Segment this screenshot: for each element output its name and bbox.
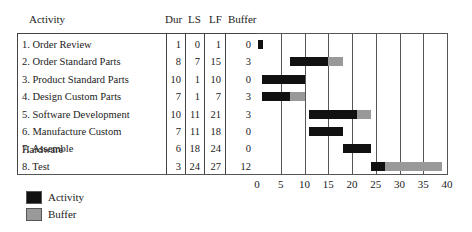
x-tick-label: 30 <box>394 178 405 190</box>
cell-lf: 1 <box>204 36 221 54</box>
table-row: 6. Manufacture Custom Hardware711180 <box>0 123 472 141</box>
cell-dur: 10 <box>166 106 181 124</box>
cell-ls: 1 <box>185 88 200 106</box>
header-dur: Dur <box>165 13 182 25</box>
cell-lf: 21 <box>204 106 221 124</box>
cell-buffer: 3 <box>225 88 251 106</box>
cell-ls: 18 <box>185 140 200 158</box>
header-lf: LF <box>209 13 222 25</box>
cell-dur: 8 <box>166 53 181 71</box>
x-tick-label: 15 <box>323 178 334 190</box>
cell-lf: 10 <box>204 71 221 89</box>
cell-lf: 27 <box>204 158 221 176</box>
cell-lf: 15 <box>204 53 221 71</box>
cell-name: 7. Assemble <box>22 140 162 158</box>
cell-ls: 1 <box>185 71 200 89</box>
header-buffer: Buffer <box>228 13 257 25</box>
cell-ls: 11 <box>185 106 200 124</box>
legend-activity-label: Activity <box>48 191 84 203</box>
cell-dur: 1 <box>166 36 181 54</box>
table-row: 1. Order Review1010 <box>0 36 472 54</box>
x-tick-label: 10 <box>299 178 310 190</box>
legend-buffer-swatch <box>26 208 42 221</box>
cell-name: 3. Product Standard Parts <box>22 71 162 89</box>
cell-dur: 3 <box>166 158 181 176</box>
x-tick-label: 0 <box>254 178 260 190</box>
cell-buffer: 0 <box>225 36 251 54</box>
cell-buffer: 3 <box>225 106 251 124</box>
cell-name: 4. Design Custom Parts <box>22 88 162 106</box>
table-row: 7. Assemble618240 <box>0 140 472 158</box>
cell-name: 2. Order Standard Parts <box>22 53 162 71</box>
cell-ls: 24 <box>185 158 200 176</box>
x-tick-label: 40 <box>442 178 453 190</box>
legend-buffer-label: Buffer <box>48 208 77 220</box>
x-tick-label: 25 <box>370 178 381 190</box>
table-row: 4. Design Custom Parts7173 <box>0 88 472 106</box>
header-activity: Activity <box>29 13 65 25</box>
cell-dur: 7 <box>166 123 181 141</box>
cell-buffer: 0 <box>225 140 251 158</box>
cell-buffer: 0 <box>225 71 251 89</box>
cell-lf: 18 <box>204 123 221 141</box>
cell-buffer: 12 <box>225 158 251 176</box>
cell-ls: 11 <box>185 123 200 141</box>
table-row: 5. Software Development1011213 <box>0 106 472 124</box>
cell-name: 1. Order Review <box>22 36 162 54</box>
x-tick-label: 20 <box>347 178 358 190</box>
cell-name: 8. Test <box>22 158 162 176</box>
legend-activity-swatch <box>26 191 42 204</box>
cell-dur: 10 <box>166 71 181 89</box>
cell-name: 5. Software Development <box>22 106 162 124</box>
cell-ls: 0 <box>185 36 200 54</box>
cell-dur: 7 <box>166 88 181 106</box>
table-row: 3. Product Standard Parts101100 <box>0 71 472 89</box>
table-row: 2. Order Standard Parts87153 <box>0 53 472 71</box>
cell-lf: 24 <box>204 140 221 158</box>
header-ls: LS <box>188 13 201 25</box>
x-tick-label: 5 <box>278 178 284 190</box>
cell-buffer: 0 <box>225 123 251 141</box>
cell-ls: 7 <box>185 53 200 71</box>
x-tick-label: 35 <box>418 178 429 190</box>
cell-buffer: 3 <box>225 53 251 71</box>
table-row: 8. Test3242712 <box>0 158 472 176</box>
cell-lf: 7 <box>204 88 221 106</box>
cell-dur: 6 <box>166 140 181 158</box>
